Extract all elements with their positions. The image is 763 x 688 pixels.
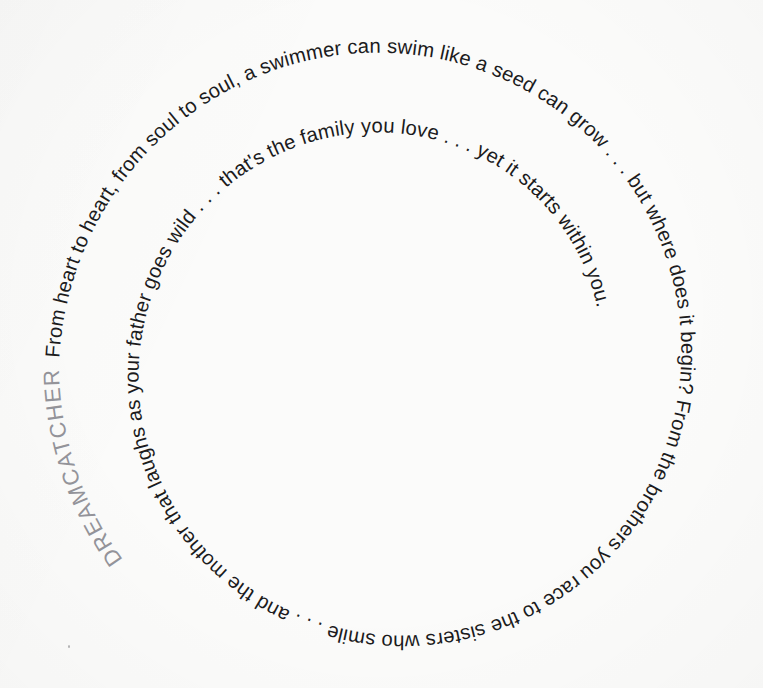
artwork-body-text: From heart to heart, from soul to soul, … [41,35,699,654]
artwork-title: DREAMCATCHER [39,368,127,571]
poster-canvas: DREAMCATCHER From heart to heart, from s… [0,0,763,688]
spiral-poem-artwork: DREAMCATCHER From heart to heart, from s… [0,0,763,688]
paper-speck [68,645,70,648]
artwork-title-text: DREAMCATCHER [39,368,127,571]
artwork-body-string: From heart to heart, from soul to soul, … [41,35,699,654]
